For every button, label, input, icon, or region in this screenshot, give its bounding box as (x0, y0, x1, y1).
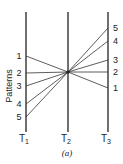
y-axis-label: Patterns (4, 69, 14, 103)
left-pattern-label: 1 (16, 51, 21, 61)
left-pattern-label: 5 (16, 112, 21, 122)
left-pattern-label: 3 (16, 81, 21, 91)
right-pattern-label: 3 (113, 55, 118, 65)
right-pattern-label: 4 (113, 36, 118, 46)
t3-label: T3 (101, 133, 111, 145)
t2-label: T2 (61, 133, 71, 145)
t1-label: T1 (19, 133, 29, 145)
crossing-point (66, 70, 69, 73)
right-pattern-label: 5 (113, 23, 118, 33)
left-pattern-label: 2 (16, 68, 21, 78)
left-pattern-label: 4 (16, 99, 21, 109)
figure-caption: (a) (62, 148, 73, 158)
pattern-crossing-diagram: Patterns 1 2 3 4 5 5 4 3 2 1 T1 T2 T3 (a… (0, 0, 123, 164)
right-pattern-label: 1 (113, 83, 118, 93)
right-pattern-label: 2 (113, 67, 118, 77)
